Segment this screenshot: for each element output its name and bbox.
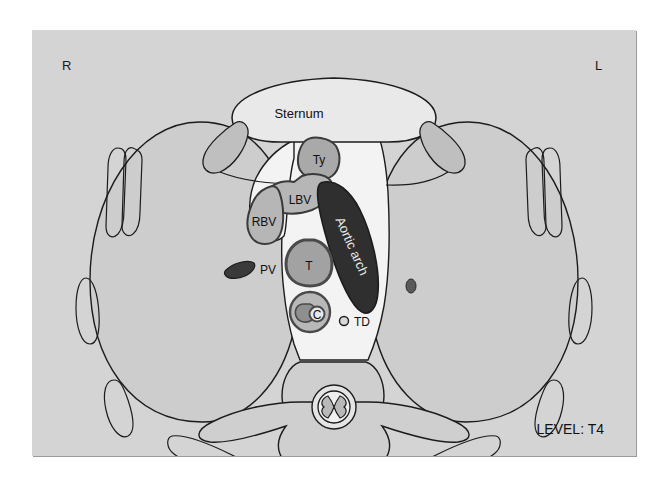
label-pulmonary-vessel: PV: [260, 263, 276, 277]
level-label: LEVEL: T4: [537, 421, 605, 437]
anatomy-panel: R L Sternum Ty LBV RBV Aortic arch T C T…: [32, 30, 636, 456]
label-thoracic-duct: TD: [354, 315, 370, 329]
orientation-marker-right: R: [62, 58, 71, 73]
orientation-marker-left: L: [595, 58, 602, 73]
label-trachea: T: [305, 259, 313, 273]
left-lung-vessel-dot: [406, 279, 416, 293]
label-right-brachiocephalic-vein: RBV: [252, 215, 277, 229]
label-thymus: Ty: [313, 153, 326, 167]
sternum: [232, 78, 436, 142]
figure-stage: R L Sternum Ty LBV RBV Aortic arch T C T…: [0, 0, 667, 486]
label-sternum: Sternum: [274, 106, 323, 121]
label-esophagus: C: [313, 308, 322, 322]
cross-section-svg: R L Sternum Ty LBV RBV Aortic arch T C T…: [32, 30, 636, 456]
label-left-brachiocephalic-vein: LBV: [289, 193, 312, 207]
lung-left: [374, 122, 578, 422]
thoracic-duct: [340, 317, 349, 326]
